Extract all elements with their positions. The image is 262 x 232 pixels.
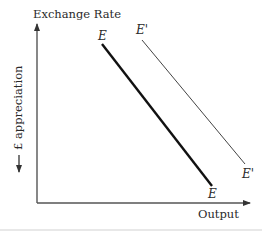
y-side-label: £ appreciation — [13, 66, 25, 150]
curve-e-prime — [142, 40, 245, 164]
bottom-divider — [0, 229, 262, 231]
curve-e-label-top: E — [98, 30, 107, 42]
curve-e — [102, 44, 212, 186]
x-axis-title: Output — [198, 209, 239, 221]
curve-e-prime-label-bottom: E' — [242, 168, 254, 180]
y-axis-title: Exchange Rate — [33, 9, 121, 21]
curve-e-label-bottom: E — [208, 188, 217, 200]
exchange-rate-output-diagram: Exchange Rate Output £ appreciation E E … — [0, 0, 262, 232]
curve-e-prime-label-top: E' — [136, 24, 148, 36]
diagram-canvas — [0, 0, 262, 232]
